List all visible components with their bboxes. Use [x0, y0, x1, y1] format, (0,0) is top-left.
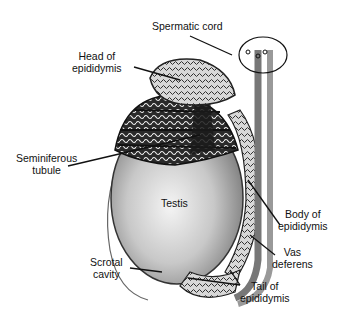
- label-line: epididymis: [72, 62, 122, 74]
- label-line: Head of: [72, 50, 122, 62]
- diagram-canvas: Spermatic cord Head of epididymis Semini…: [0, 0, 345, 317]
- epididymis-head: [150, 59, 235, 105]
- label-line: Vas: [272, 246, 313, 258]
- label-line: cavity: [90, 268, 123, 280]
- spermatic-cord-circle: [239, 37, 287, 73]
- label-head-of-epididymis: Head of epididymis: [72, 50, 122, 74]
- label-line: Seminiferous: [16, 152, 77, 164]
- label-spermatic-cord: Spermatic cord: [152, 20, 223, 32]
- label-line: Tail of: [240, 280, 290, 292]
- label-line: Body of: [278, 208, 328, 220]
- label-line: epididymis: [240, 292, 290, 304]
- label-line: epididymis: [278, 220, 328, 232]
- label-line: deferens: [272, 258, 313, 270]
- label-vas-deferens: Vas deferens: [272, 246, 313, 270]
- label-line: Testis: [161, 197, 188, 209]
- label-seminiferous-tubule: Seminiferous tubule: [16, 152, 77, 176]
- label-scrotal-cavity: Scrotal cavity: [90, 256, 123, 280]
- label-body-of-epididymis: Body of epididymis: [278, 208, 328, 232]
- label-line: Scrotal: [90, 256, 123, 268]
- label-line: Spermatic cord: [152, 20, 223, 32]
- label-testis: Testis: [161, 197, 188, 209]
- label-line: tubule: [16, 164, 77, 176]
- label-tail-of-epididymis: Tail of epididymis: [240, 280, 290, 304]
